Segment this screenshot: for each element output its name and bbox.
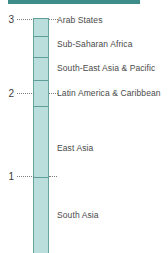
bar-segment-latin-america-caribbean[interactable] [33, 80, 49, 106]
bar-segment-south-asia[interactable] [33, 177, 49, 253]
y-axis-tick-label-3: 3 [2, 14, 14, 25]
y-axis-leader-left-2 [17, 93, 34, 94]
stacked-column [33, 18, 49, 253]
y-axis-tick-label-2: 2 [2, 88, 14, 99]
series-label-sub-saharan-africa: Sub-Saharan Africa [57, 39, 133, 49]
series-label-east-asia: East Asia [57, 143, 93, 153]
bar-segment-east-asia[interactable] [33, 106, 49, 177]
y-axis-tick-label-1: 1 [2, 171, 14, 182]
bar-segment-south-east-asia-pacific[interactable] [33, 57, 49, 80]
series-label-arab-states: Arab States [57, 15, 103, 25]
series-label-south-asia: South Asia [57, 210, 99, 220]
bar-segment-arab-states[interactable] [33, 18, 49, 36]
y-axis-leader-left-1 [17, 176, 34, 177]
y-axis-leader-left-3 [17, 19, 34, 20]
header-rule [8, 0, 140, 4]
bar-segment-sub-saharan-africa[interactable] [33, 36, 49, 57]
stacked-bar-chart: 3 2 1 Arab States Sub-Saharan Africa Sou… [0, 0, 168, 253]
series-label-south-east-asia-pacific: South-East Asia & Pacific [57, 63, 155, 73]
series-label-latin-america-caribbean: Latin America & Caribbean [57, 88, 161, 98]
y-axis-leader-right-1 [49, 176, 57, 177]
